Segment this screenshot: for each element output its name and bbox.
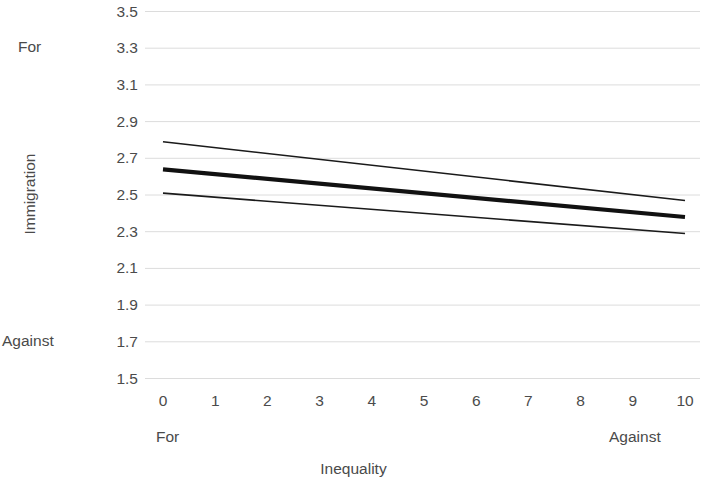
x-axis-title: Inequality <box>0 460 707 478</box>
y-axis-tick-label: 3.1 <box>88 76 138 94</box>
x-axis-tick-label: 9 <box>628 392 637 410</box>
y-axis-tick-labels: 3.53.33.12.92.72.52.32.11.91.71.5 <box>0 0 707 485</box>
y-axis-pole-low-label: Against <box>2 332 54 350</box>
x-axis-tick-label: 5 <box>420 392 429 410</box>
y-axis-pole-high-label: For <box>18 38 41 56</box>
x-axis-tick-label: 7 <box>524 392 533 410</box>
y-axis-tick-label: 1.9 <box>88 296 138 314</box>
x-axis-pole-high-label: Against <box>609 428 661 446</box>
y-axis-tick-label: 2.5 <box>88 186 138 204</box>
y-axis-tick-label: 2.3 <box>88 223 138 241</box>
x-axis-tick-label: 8 <box>576 392 585 410</box>
y-axis-tick-label: 3.3 <box>88 39 138 57</box>
x-axis-tick-label: 1 <box>211 392 220 410</box>
y-axis-tick-label: 2.9 <box>88 113 138 131</box>
x-axis-tick-label: 3 <box>315 392 324 410</box>
y-axis-title: Immigration <box>21 114 39 274</box>
x-axis-tick-label: 10 <box>676 392 693 410</box>
y-axis-tick-label: 2.1 <box>88 259 138 277</box>
regression-line-chart: 3.53.33.12.92.72.52.32.11.91.71.5 012345… <box>0 0 707 485</box>
y-axis-tick-label: 3.5 <box>88 3 138 21</box>
x-axis-tick-label: 2 <box>263 392 272 410</box>
x-axis-tick-label: 6 <box>472 392 481 410</box>
y-axis-tick-label: 1.5 <box>88 370 138 388</box>
x-axis-tick-label: 0 <box>159 392 168 410</box>
x-axis-pole-low-label: For <box>156 428 179 446</box>
y-axis-tick-label: 1.7 <box>88 333 138 351</box>
x-axis-tick-label: 4 <box>367 392 376 410</box>
y-axis-tick-label: 2.7 <box>88 149 138 167</box>
